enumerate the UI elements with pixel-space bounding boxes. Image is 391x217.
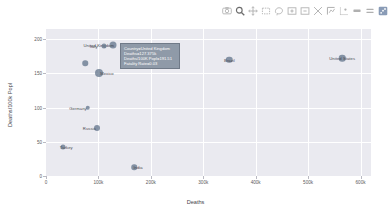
- y-axis-tick-label: 150: [20, 71, 42, 76]
- y-axis-tick: [43, 73, 46, 74]
- y-gridline: [46, 142, 371, 143]
- x-axis-tick-label: 100k: [83, 180, 113, 185]
- x-axis-tick-label: 600k: [346, 180, 376, 185]
- y-axis-tick: [43, 142, 46, 143]
- x-axis-tick: [151, 176, 152, 179]
- x-axis-tick: [98, 176, 99, 179]
- scatter-point-label: United States: [329, 56, 355, 61]
- y-gridline: [46, 39, 371, 40]
- scatter-point[interactable]: [83, 60, 89, 66]
- scatter-point-label: India: [133, 165, 142, 170]
- x-gridline: [361, 29, 362, 176]
- x-axis-tick-label: 200k: [136, 180, 166, 185]
- x-gridline: [203, 29, 204, 176]
- scatter-point-label: Mexico: [100, 71, 114, 76]
- y-axis-tick-label: 0: [20, 174, 42, 179]
- x-axis-tick: [308, 176, 309, 179]
- scatter-point-label: Turkey: [60, 145, 73, 150]
- scatter-point[interactable]: [101, 44, 106, 49]
- scatter-point-label: Russia: [83, 126, 96, 131]
- y-gridline: [46, 108, 371, 109]
- x-axis-tick-label: 300k: [188, 180, 218, 185]
- hover-tooltip: Country=United KingdomDeaths=127.375kDea…: [120, 43, 180, 69]
- tooltip-line-1: Country=United Kingdom: [124, 46, 176, 51]
- y-axis-tick: [43, 39, 46, 40]
- x-axis-tick-label: 400k: [241, 180, 271, 185]
- y-axis-tick-label: 200: [20, 37, 42, 42]
- scatter-point-label: Germany: [69, 105, 87, 110]
- x-axis-label: Deaths: [0, 199, 391, 205]
- y-axis-label: Deaths/100k Popl: [7, 65, 13, 145]
- scatter-plot: United KingdomItalyMexicoGermanyRussiaTu…: [0, 14, 391, 217]
- x-axis-tick-label: 500k: [293, 180, 323, 185]
- x-gridline: [308, 29, 309, 176]
- y-axis-tick: [43, 108, 46, 109]
- tooltip-line-4: Fatality Rate=0.03: [124, 61, 176, 66]
- y-axis-tick: [43, 176, 46, 177]
- scatter-point-label: Brazil: [224, 57, 235, 62]
- scatter-point-label: Italy: [90, 44, 98, 49]
- plot-area[interactable]: United KingdomItalyMexicoGermanyRussiaTu…: [46, 29, 371, 176]
- y-axis-tick-label: 100: [20, 105, 42, 110]
- x-axis-tick-label: 0: [31, 180, 61, 185]
- x-axis-tick: [203, 176, 204, 179]
- x-gridline: [256, 29, 257, 176]
- x-axis-tick: [361, 176, 362, 179]
- x-axis-tick: [46, 176, 47, 179]
- x-axis-tick: [256, 176, 257, 179]
- x-gridline: [98, 29, 99, 176]
- scatter-point-label: United Kingdom: [84, 43, 115, 48]
- y-axis-tick-label: 50: [20, 139, 42, 144]
